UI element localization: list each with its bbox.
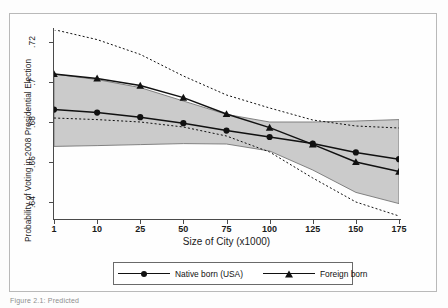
y-tick <box>49 202 53 203</box>
y-tick <box>49 162 53 163</box>
native-born-point <box>267 134 273 140</box>
x-tick-label: 175 <box>391 224 406 234</box>
legend-label-native: Native born (USA) <box>175 269 243 279</box>
y-tick-label: .72 <box>18 37 46 47</box>
triangle-marker-icon <box>285 270 293 277</box>
y-tick-label: .66 <box>18 157 46 167</box>
figure-container: Probability of Voting in 2008 Presidenti… <box>0 0 448 308</box>
y-tick <box>49 122 53 123</box>
native-ci-band <box>54 74 399 204</box>
x-tick-label: 150 <box>348 224 363 234</box>
y-tick-label: .7 <box>18 77 46 87</box>
y-tick-label: .64 <box>18 197 46 207</box>
chart-svg <box>54 30 399 218</box>
x-tick-label: 125 <box>305 224 320 234</box>
native-born-point <box>353 149 359 155</box>
native-born-point <box>223 128 229 134</box>
x-axis-title: Size of City (x1000) <box>54 236 399 247</box>
native-born-point <box>94 110 100 116</box>
legend-label-foreign: Foreign born <box>320 269 368 279</box>
plot-area <box>54 30 399 218</box>
native-born-point <box>180 120 186 126</box>
x-tick-label: 1 <box>51 224 56 234</box>
legend-line-foreign <box>263 269 315 278</box>
x-tick-label: 100 <box>262 224 277 234</box>
x-tick-label: 50 <box>178 224 188 234</box>
x-tick-label: 10 <box>92 224 102 234</box>
chart-legend: Native born (USA) Foreign born <box>113 262 353 285</box>
legend-line-native <box>118 269 170 278</box>
x-tick-label: 75 <box>221 224 231 234</box>
y-tick <box>49 42 53 43</box>
legend-entry-foreign[interactable]: Foreign born <box>259 269 372 279</box>
legend-entry-native[interactable]: Native born (USA) <box>114 269 247 279</box>
native-born-point <box>137 114 143 120</box>
figure-caption: Figure 2.1: Predicted <box>10 297 79 304</box>
y-tick <box>49 82 53 83</box>
circle-marker-icon <box>141 271 147 277</box>
x-tick-label: 25 <box>135 224 145 234</box>
y-tick-label: .68 <box>18 117 46 127</box>
